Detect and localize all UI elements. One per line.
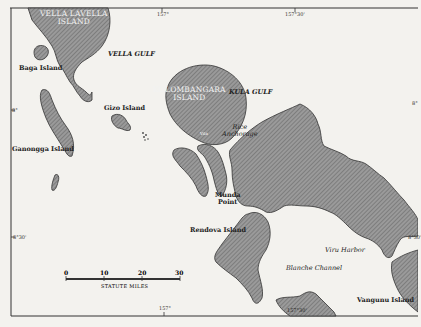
label-munda-point: Munda Point (215, 192, 240, 205)
islets (142, 132, 149, 141)
label-vila: Vila (200, 132, 208, 136)
label-vella-lavella: VELLA LAVELLA ISLAND (40, 10, 108, 25)
scale-tick-0: 0 (64, 269, 68, 276)
scale-tick-10: 10 (100, 269, 108, 276)
coord-top-157-30: 157°30' (285, 12, 305, 17)
label-viru-harbor: Viru Harbor (325, 247, 365, 254)
land-masses (28, 8, 418, 316)
label-baga-island: Baga Island (19, 65, 62, 72)
label-gizo-island: Gizo Island (104, 105, 145, 112)
label-vella-gulf: VELLA GULF (108, 51, 155, 58)
coord-left-8-30: 8°30' (13, 235, 26, 240)
label-ganongga-island: Ganongga Island (12, 146, 74, 153)
baga-island-shape (34, 45, 48, 59)
coord-left-8: 8° (12, 108, 18, 113)
coord-right-8: 8° (412, 101, 418, 106)
label-vangunu-island: Vangunu Island (357, 297, 414, 304)
coord-bottom-157-30: 157°30' (287, 308, 307, 313)
label-rendova-island: Rendova Island (190, 227, 246, 234)
label-blanche-channel: Blanche Channel (286, 265, 342, 272)
label-kolombangara: KOLOMBANGARA ISLAND (153, 86, 226, 101)
scale-caption: STATUTE MILES (101, 283, 148, 289)
gizo-island-shape (111, 114, 130, 130)
label-kula-gulf: KULA GULF (229, 89, 272, 96)
small-island-shape (52, 174, 59, 190)
coord-right-8-30: 8°30' (408, 235, 421, 240)
coord-top-157: 157° (157, 12, 169, 17)
scale-bar (66, 276, 180, 281)
scale-tick-30: 30 (175, 269, 183, 276)
label-rice-anchorage: Rice Anchorage (222, 124, 258, 137)
coord-bottom-157: 157° (159, 306, 171, 311)
scale-tick-20: 20 (138, 269, 146, 276)
